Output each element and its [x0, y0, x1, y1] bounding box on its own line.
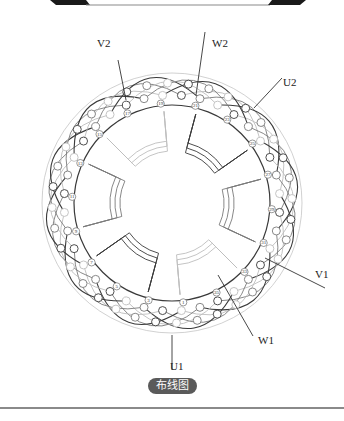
terminal-label-u1: U1 [170, 360, 183, 372]
slot-terminal [64, 227, 72, 235]
slot-terminal [143, 82, 151, 90]
slot-terminal [256, 261, 264, 269]
slot-number: 29 [269, 207, 275, 212]
slot-terminal [244, 275, 252, 283]
slot-terminal [106, 287, 114, 295]
slot-terminal [244, 123, 252, 131]
slot-terminal [274, 255, 282, 263]
slot-terminal [257, 118, 265, 126]
terminal-label-u2: U2 [283, 76, 296, 88]
slot-terminal [122, 101, 130, 109]
slot-terminal [48, 203, 56, 211]
terminal-label-w2: W2 [212, 37, 228, 49]
coil-end-arc [126, 81, 217, 105]
slot-terminal [79, 280, 87, 288]
slot-terminal [80, 261, 88, 269]
jumper-wire [97, 233, 159, 292]
slot-terminal [159, 307, 167, 315]
slot-terminal [140, 95, 148, 103]
jumper-wire [107, 111, 167, 162]
slot-terminal [288, 195, 296, 203]
slot-terminal [104, 97, 112, 105]
slot-terminal [282, 236, 290, 244]
slot-number: 27 [265, 172, 271, 177]
slot-terminal [152, 318, 160, 326]
coil-end-arc [50, 157, 74, 248]
slot-terminal [106, 111, 114, 119]
slot-terminal [249, 288, 257, 296]
slot-terminal [285, 174, 293, 182]
jumper-wire [83, 164, 125, 227]
slot-terminal [177, 91, 185, 99]
slot-terminal [193, 316, 201, 324]
slot-terminal [49, 183, 57, 191]
slot-terminal [266, 245, 274, 253]
jumper-wire [97, 236, 158, 292]
slot-number: 19 [158, 101, 164, 106]
bottom-divider [0, 407, 344, 409]
slot-terminal [270, 135, 278, 143]
jumper-wire [188, 114, 247, 167]
slot-terminal [64, 171, 72, 179]
slot-number: 15 [97, 132, 103, 137]
slot-number: 17 [125, 111, 131, 116]
jumper-wire [185, 114, 247, 173]
terminal-label-v1: V1 [315, 268, 328, 280]
slot-terminal [159, 91, 167, 99]
slot-terminal [73, 125, 81, 133]
slot-number: 25 [250, 141, 256, 146]
jumper-wire [97, 239, 156, 292]
slot-terminal [92, 275, 100, 283]
jumper-wire [177, 243, 237, 294]
slot-terminal [230, 111, 238, 119]
outer-guide-circle [42, 73, 302, 333]
slot-terminal [122, 297, 130, 305]
slot-terminal [242, 104, 250, 112]
slot-terminal [66, 263, 74, 271]
slot-terminal [279, 154, 287, 162]
coil-end-arc [234, 212, 284, 291]
slot-number: 31 [261, 240, 267, 245]
slot-terminal [54, 162, 62, 170]
jumper-wire [224, 179, 261, 242]
coil-end-arc [181, 91, 260, 141]
slot-terminal [92, 123, 100, 131]
slot-number: 11 [70, 194, 75, 199]
diagram-caption: 布线图 [148, 378, 197, 394]
slot-terminal [140, 303, 148, 311]
slot-terminal [276, 208, 284, 216]
slot-terminal [112, 305, 120, 313]
slot-terminal [184, 80, 192, 88]
slot-terminal [80, 137, 88, 145]
slot-terminal [276, 190, 284, 198]
coil-end-arc [84, 265, 163, 315]
slot-terminal [266, 153, 274, 161]
jumper-wire [83, 164, 116, 227]
slot-terminal [213, 310, 221, 318]
slot-terminal [94, 294, 102, 302]
jumper-wire [219, 179, 261, 242]
slot-number: 23 [225, 117, 231, 122]
slot-terminal [214, 101, 222, 109]
slot-terminal [51, 224, 59, 232]
jumper-wire [107, 111, 167, 159]
slot-terminal [263, 273, 271, 281]
terminal-label-v2: V2 [97, 37, 110, 49]
slot-terminal [196, 95, 204, 103]
terminal-lead-u2 [254, 78, 282, 108]
coil-end-arc [60, 115, 110, 194]
terminal-label-w1: W1 [258, 334, 274, 346]
slot-terminal [62, 143, 70, 151]
slot-terminal [87, 110, 95, 118]
coil-end-arc [126, 301, 217, 325]
slot-number: 13 [78, 161, 84, 166]
slot-terminal [60, 208, 68, 216]
jumper-wire [187, 114, 248, 170]
slot-number: 33 [242, 269, 248, 274]
slot-terminal [131, 313, 139, 321]
slot-terminal [164, 79, 172, 87]
slot-terminal [256, 137, 264, 145]
slot-terminal [177, 307, 185, 315]
terminal-lead-w1 [218, 275, 253, 336]
coil-end-arc [270, 157, 294, 248]
